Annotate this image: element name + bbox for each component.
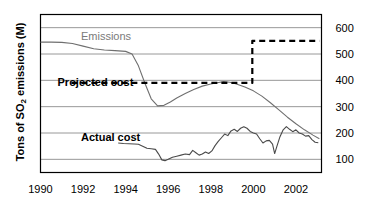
- emissions-label: Emissions: [81, 30, 132, 42]
- y-axis-tick-labels: 100200300400500600: [336, 22, 354, 166]
- actual-cost-label: Actual cost: [81, 131, 141, 143]
- y-tick-label: 400: [336, 74, 354, 86]
- x-tick-label: 2000: [241, 183, 265, 195]
- y-tick-label: 600: [336, 22, 354, 34]
- x-tick-label: 2002: [284, 183, 308, 195]
- y-tick-label: 100: [336, 153, 354, 165]
- series-annotations: EmissionsProjected costActual cost: [58, 30, 141, 143]
- projected-cost-label: Projected cost: [58, 76, 134, 88]
- x-tick-label: 1998: [199, 183, 223, 195]
- series-line-emissions: [41, 42, 320, 139]
- so2-emissions-chart: Tons of SO2 emissions (M) 10020030040050…: [0, 0, 373, 207]
- y-tick-label: 500: [336, 48, 354, 60]
- x-tick-label: 1990: [28, 183, 52, 195]
- x-tick-label: 1992: [71, 183, 95, 195]
- series-line-actual-cost: [118, 127, 318, 161]
- x-tick-label: 1996: [156, 183, 180, 195]
- x-axis-tick-labels: 1990199219941996199820002002: [28, 183, 308, 195]
- x-tick-label: 1994: [113, 183, 137, 195]
- chart-plot-area: 100200300400500600 199019921994199619982…: [0, 0, 373, 207]
- y-tick-label: 200: [336, 127, 354, 139]
- y-tick-label: 300: [336, 101, 354, 113]
